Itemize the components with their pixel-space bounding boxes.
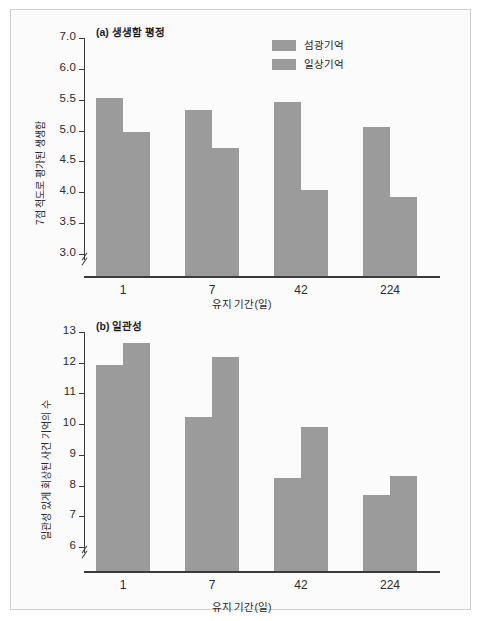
y-axis-tick	[79, 223, 84, 224]
panel-a-y-axis-title: 7점 척도로 평가된 생생함	[32, 121, 47, 225]
bar-flashbulb	[274, 102, 301, 276]
y-axis-tick-label: 5.0	[36, 123, 76, 135]
y-axis-tick-label: 13	[36, 324, 76, 336]
y-axis-tick	[79, 424, 84, 425]
panel-b-x-axis-title: 유지 기간(일)	[0, 599, 483, 614]
y-axis-tick	[79, 455, 84, 456]
y-axis-tick-label: 4.5	[36, 153, 76, 165]
legend-swatch-flashbulb	[272, 40, 296, 51]
x-axis-tick-label: 42	[271, 578, 331, 592]
bar-flashbulb	[96, 365, 123, 571]
y-axis-tick	[79, 254, 84, 255]
y-axis-tick	[79, 547, 84, 548]
bar-everyday	[390, 197, 417, 276]
y-axis-tick	[79, 131, 84, 132]
y-axis-tick	[79, 332, 84, 333]
y-axis-tick	[79, 363, 84, 364]
legend-label-everyday: 일상기억	[304, 57, 344, 71]
bar-everyday	[123, 132, 150, 276]
y-axis-tick-label: 6	[36, 539, 76, 551]
figure-root: (a) 생생함 평정 7점 척도로 평가된 생생함 7.06.05.55.04.…	[0, 0, 483, 621]
x-axis-tick-label: 224	[360, 283, 420, 297]
panel-b-title: (b) 일관성	[96, 318, 142, 333]
bar-everyday	[212, 148, 239, 276]
bar-everyday	[212, 357, 239, 571]
y-axis-tick-label: 6.0	[36, 61, 76, 73]
y-axis-tick-label: 3.5	[36, 215, 76, 227]
legend-label-flashbulb: 섬광기억	[304, 38, 344, 52]
x-axis-line	[84, 571, 440, 573]
y-axis-tick-label: 7	[36, 508, 76, 520]
y-axis-tick	[79, 38, 84, 39]
x-axis-tick-label: 7	[182, 578, 242, 592]
y-axis-line	[84, 332, 85, 553]
y-axis-tick-label: 7.0	[36, 30, 76, 42]
chart-panel-b: (b) 일관성 일관성 있게 회상된 사건 기억의 수 131211109876…	[0, 300, 483, 621]
x-axis-tick-label: 1	[93, 283, 153, 297]
bar-everyday	[301, 427, 328, 571]
y-axis-tick	[79, 393, 84, 394]
y-axis-tick	[79, 69, 84, 70]
y-axis-tick	[79, 161, 84, 162]
x-axis-tick-label: 42	[271, 283, 331, 297]
bar-everyday	[390, 476, 417, 571]
y-axis-line	[84, 38, 85, 260]
y-axis-tick	[79, 516, 84, 517]
y-axis-tick	[79, 192, 84, 193]
bar-flashbulb	[274, 478, 301, 571]
chart-panel-a: (a) 생생함 평정 7점 척도로 평가된 생생함 7.06.05.55.04.…	[0, 0, 483, 310]
x-axis-tick-label: 1	[93, 578, 153, 592]
x-axis-tick-label: 224	[360, 578, 420, 592]
y-axis-tick-label: 10	[36, 416, 76, 428]
bar-flashbulb	[363, 495, 390, 571]
y-axis-tick-label: 11	[36, 385, 76, 397]
bar-flashbulb	[96, 98, 123, 276]
bar-flashbulb	[363, 127, 390, 276]
x-axis-tick-label: 7	[182, 283, 242, 297]
legend-swatch-everyday	[272, 59, 296, 70]
y-axis-tick-label: 3.0	[36, 246, 76, 258]
bar-everyday	[301, 190, 328, 276]
y-axis-tick-label: 5.5	[36, 92, 76, 104]
y-axis-tick-label: 8	[36, 478, 76, 490]
y-axis-tick-label: 12	[36, 355, 76, 367]
y-axis-tick-label: 4.0	[36, 184, 76, 196]
bar-everyday	[123, 343, 150, 571]
y-axis-tick	[79, 100, 84, 101]
panel-a-title: (a) 생생함 평정	[96, 24, 165, 39]
y-axis-tick	[79, 486, 84, 487]
bar-flashbulb	[185, 417, 212, 571]
bar-flashbulb	[185, 110, 212, 276]
y-axis-tick-label: 9	[36, 447, 76, 459]
x-axis-line	[84, 276, 440, 278]
